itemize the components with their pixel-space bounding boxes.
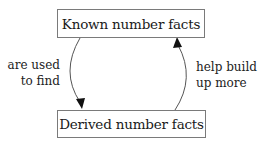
node-label: Known number facts bbox=[62, 16, 200, 32]
arrow-derived-to-known bbox=[175, 45, 186, 110]
edge-label-are-used-to-find: are used to find bbox=[8, 57, 60, 89]
edge-label-line: to find bbox=[8, 73, 60, 89]
node-derived-number-facts: Derived number facts bbox=[57, 110, 206, 138]
edge-label-line: help build bbox=[196, 59, 257, 75]
node-known-number-facts: Known number facts bbox=[57, 9, 205, 38]
edge-label-help-build-up-more: help build up more bbox=[196, 59, 257, 91]
edge-label-line: are used bbox=[8, 57, 60, 73]
node-label: Derived number facts bbox=[59, 116, 204, 132]
arrowhead-up-icon bbox=[173, 37, 182, 48]
arrow-known-to-derived bbox=[70, 38, 80, 102]
arrowhead-down-icon bbox=[76, 98, 85, 109]
edge-label-line: up more bbox=[196, 75, 257, 91]
